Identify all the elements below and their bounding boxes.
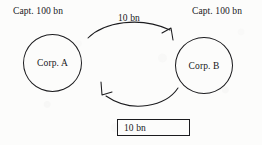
flow-amount-box-b-to-a: 10 bn [117,119,190,136]
arrow-b-to-a-shaft [106,88,178,106]
flow-amount-b-to-a: 10 bn [118,123,146,133]
arrow-a-to-b-head [162,28,173,40]
node-corp-b: Corp. B [175,37,233,94]
arrow-b-to-a-head [101,82,112,95]
flow-amount-a-to-b: 10 bn [118,13,140,23]
node-label-corp-a: Corp. A [37,58,68,68]
node-label-corp-b: Corp. B [189,61,220,71]
arrow-a-to-b-shaft [88,22,170,38]
node-corp-a: Corp. A [23,34,82,92]
capital-flow-diagram: Capt. 100 bn Capt. 100 bn 10 bn Corp. A … [0,0,262,145]
